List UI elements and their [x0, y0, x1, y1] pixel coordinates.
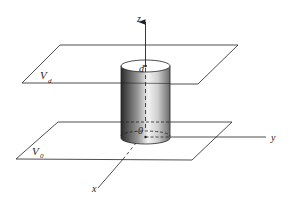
x-axis-label: x [91, 183, 97, 194]
cylinder [121, 60, 170, 144]
cylinder-between-planes-diagram: z y x 0 d V d V 0 [0, 0, 291, 208]
bottom-plane-label-subscript: 0 [40, 152, 44, 160]
y-axis-label: y [270, 132, 276, 143]
origin-label: 0 [138, 125, 143, 136]
bottom-plane-label: V 0 [32, 145, 44, 160]
top-plane-label-main: V [40, 69, 48, 81]
top-plane-label-subscript: d [48, 77, 52, 85]
diagram-canvas: z y x 0 d V d V 0 [0, 0, 291, 208]
x-axis [98, 138, 140, 188]
z-axis-label: z [136, 13, 141, 24]
bottom-plane-label-main: V [32, 145, 40, 157]
